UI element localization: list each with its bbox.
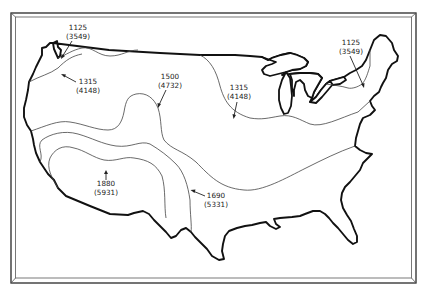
contour-label-nw-1125: 1125 (3549): [61, 23, 90, 59]
arrow-icon: [191, 190, 196, 194]
label-alt-value: (5331): [204, 200, 228, 209]
contour-label-south-1690: 1690 (5331): [191, 190, 229, 209]
arrow-icon: [104, 170, 108, 174]
label-alt-value: (3549): [339, 47, 363, 56]
label-alt-value: (4148): [76, 86, 100, 95]
arrow-icon: [233, 114, 237, 119]
frame-bevel-br: [412, 278, 417, 283]
leader-line: [234, 102, 237, 116]
lake-ontario: [330, 77, 346, 85]
lake-michigan: [279, 72, 292, 114]
us-contour-map: 1125 (3549) 1315 (4148) 1500 (4732) 1315…: [0, 0, 425, 293]
arrow-icon: [361, 83, 365, 88]
label-alt-value: (4732): [158, 81, 182, 90]
contour-1500: [31, 94, 355, 191]
contour-nw-1315: [29, 54, 82, 82]
frame-bevel-bl: [11, 278, 16, 283]
arrow-icon: [61, 74, 66, 78]
contour-label-sw-1880: 1880 (5931): [94, 170, 118, 197]
arrow-icon: [158, 103, 162, 108]
contour-label-nw-1315: 1315 (4148): [61, 74, 100, 95]
label-alt-value: (4148): [227, 92, 251, 101]
contour-label-central-1500: 1500 (4732): [158, 72, 183, 108]
us-outline: [24, 35, 398, 260]
label-alt-value: (3549): [66, 32, 90, 41]
leader-line: [159, 90, 166, 105]
label-alt-value: (5931): [94, 188, 118, 197]
leader-line: [350, 56, 363, 85]
